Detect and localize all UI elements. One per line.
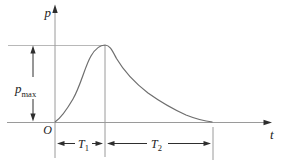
diagram-canvas: p t O pmax T1 T2 <box>0 0 284 168</box>
decay-duration-label-subscript: 2 <box>158 143 162 153</box>
t2-arrowhead-right <box>204 141 212 146</box>
origin-label: O <box>43 123 52 137</box>
peak-pressure-label: pmax <box>14 81 37 99</box>
rise-duration-label: T1 <box>78 137 89 153</box>
peak-pressure-label-subscript: max <box>22 89 37 99</box>
pressure-axis-label: p <box>44 5 52 20</box>
time-axis-label: t <box>270 127 274 142</box>
rise-duration-label-subscript: 1 <box>85 143 89 153</box>
t2-arrowhead-left <box>107 141 115 146</box>
pressure-time-diagram: p t O pmax T1 T2 <box>0 0 284 168</box>
time-axis-label-text: t <box>270 127 274 142</box>
pressure-pulse-curve <box>55 45 213 122</box>
pmax-arrowhead-down <box>30 114 35 122</box>
pressure-axis-label-text: p <box>44 5 52 20</box>
origin-label-text: O <box>43 123 52 137</box>
decay-duration-label: T2 <box>151 137 162 153</box>
t1-arrowhead-right <box>96 141 104 146</box>
t1-arrowhead-left <box>57 141 65 146</box>
time-axis-arrowhead <box>264 120 273 125</box>
pmax-arrowhead-up <box>30 46 35 54</box>
pressure-axis-arrowhead <box>52 5 57 14</box>
